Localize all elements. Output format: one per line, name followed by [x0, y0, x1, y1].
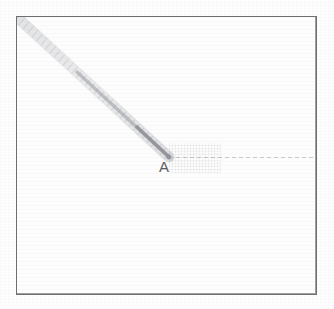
grid-smudge-artifact: [169, 143, 221, 173]
frame-texture: [17, 17, 316, 294]
point-label-a: A: [159, 159, 169, 174]
diagonal-ray: [17, 17, 317, 295]
diagram-frame: [16, 16, 317, 295]
figure-root: A: [0, 0, 334, 309]
dashed-horizontal-line: [17, 17, 317, 295]
